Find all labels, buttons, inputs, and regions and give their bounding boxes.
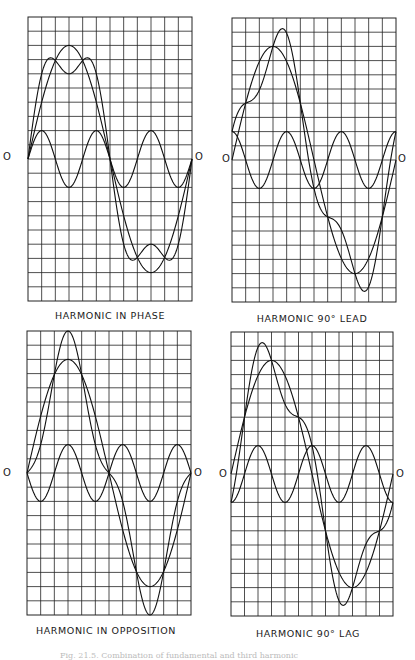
chart-title: HARMONIC 90° LAG: [256, 628, 360, 639]
chart-title: HARMONIC IN PHASE: [55, 310, 165, 321]
zero-label-right: O: [194, 467, 202, 478]
figure-caption: Fig. 21.5. Combination of fundamental an…: [60, 651, 298, 660]
zero-label-left: O: [3, 151, 11, 162]
chart-harmonic-90-lag: [231, 332, 393, 616]
chart-harmonic-in-opposition: [27, 331, 191, 615]
zero-label-left: O: [3, 467, 11, 478]
chart-harmonic-in-phase: [28, 17, 192, 301]
zero-label-right: O: [396, 468, 404, 479]
zero-label-right: O: [195, 151, 203, 162]
panel-harmonic-in-phase: [28, 17, 192, 301]
zero-label-right: O: [398, 153, 406, 164]
panel-harmonic-90-lead: [232, 18, 396, 302]
zero-label-left: O: [219, 468, 227, 479]
panel-harmonic-90-lag: [231, 332, 393, 616]
zero-label-left: O: [222, 153, 230, 164]
chart-title: HARMONIC 90° LEAD: [257, 313, 368, 324]
chart-title: HARMONIC IN OPPOSITION: [36, 625, 176, 636]
chart-harmonic-90-lead: [232, 18, 396, 302]
panel-harmonic-in-opposition: [27, 331, 191, 615]
